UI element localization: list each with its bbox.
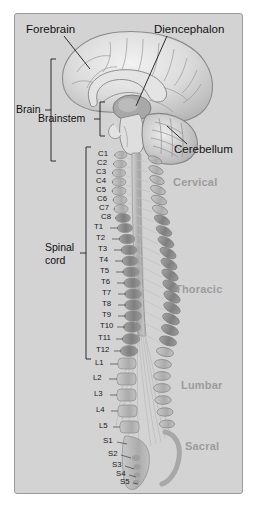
label-vertebra-s1: S1: [103, 437, 113, 445]
label-region-lumbar: Lumbar: [181, 380, 223, 391]
label-vertebra-t1: T1: [94, 223, 103, 231]
label-vertebra-s5: S5: [120, 478, 130, 486]
label-vertebra-c6: C6: [97, 195, 107, 203]
label-vertebra-c2: C2: [97, 159, 107, 167]
label-vertebra-c3: C3: [96, 168, 106, 176]
label-vertebra-c1: C1: [98, 150, 108, 158]
label-spinal-cord-line1: Spinal: [45, 242, 74, 253]
label-vertebra-s2: S2: [108, 450, 118, 458]
brain-bracket: [51, 59, 56, 161]
label-vertebra-c8: C8: [101, 213, 111, 221]
label-vertebra-t5: T5: [100, 267, 109, 275]
label-vertebra-c5: C5: [96, 186, 106, 194]
label-vertebra-l4: L4: [96, 406, 105, 414]
label-vertebra-l5: L5: [99, 422, 108, 430]
label-region-sacral: Sacral: [185, 441, 219, 452]
label-vertebra-l2: L2: [93, 374, 102, 382]
label-vertebra-t11: T11: [98, 334, 111, 342]
label-vertebra-t12: T12: [96, 346, 109, 354]
label-cerebellum: Cerebellum: [174, 144, 233, 156]
label-region-cervical: Cervical: [173, 177, 217, 188]
label-vertebra-l3: L3: [94, 390, 103, 398]
label-vertebra-c7: C7: [99, 204, 109, 212]
anatomy-figure: Forebrain Diencephalon Cerebellum Brain …: [0, 0, 259, 521]
label-diencephalon: Diencephalon: [154, 24, 224, 36]
label-forebrain: Forebrain: [26, 24, 75, 36]
label-brain: Brain: [16, 104, 41, 115]
label-brainstem: Brainstem: [38, 113, 85, 124]
label-vertebra-t6: T6: [101, 278, 110, 286]
label-vertebra-t7: T7: [102, 289, 111, 297]
label-vertebra-c4: C4: [96, 177, 106, 185]
label-vertebra-t8: T8: [102, 300, 111, 308]
label-spinal-cord-line2: cord: [45, 255, 65, 266]
label-vertebra-t10: T10: [100, 322, 113, 330]
brainstem: [109, 114, 145, 155]
label-vertebra-l1: L1: [95, 359, 104, 367]
label-vertebra-t3: T3: [98, 245, 107, 253]
label-vertebra-t4: T4: [99, 256, 108, 264]
spinous-processes: [147, 154, 182, 484]
label-vertebra-s3: S3: [112, 461, 122, 469]
spinal-cord-bracket: [86, 147, 91, 359]
label-region-thoracic: Thoracic: [175, 284, 222, 295]
label-vertebra-t2: T2: [96, 234, 105, 242]
figure-panel: Forebrain Diencephalon Cerebellum Brain …: [14, 13, 243, 494]
label-vertebra-t9: T9: [102, 311, 111, 319]
